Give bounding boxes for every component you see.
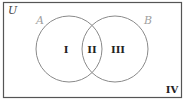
set-b-label: B — [143, 14, 152, 27]
universe-label: U — [8, 4, 18, 17]
set-a-label: A — [35, 14, 44, 27]
region-iii-label: III — [111, 44, 125, 55]
region-ii-label: II — [87, 44, 97, 55]
region-iv-label: IV — [166, 84, 179, 95]
venn-diagram: U A B I II III IV — [0, 0, 189, 108]
region-i-label: I — [64, 44, 69, 55]
